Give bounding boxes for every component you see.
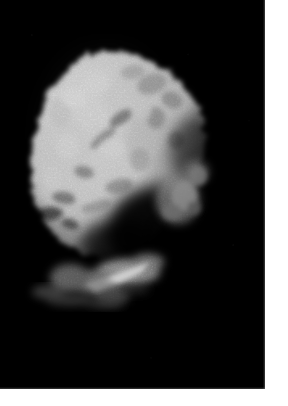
space-image-frame: [0, 0, 265, 389]
page-margin-right: [265, 0, 288, 406]
comet-nucleus: [0, 0, 265, 389]
image-page: [0, 0, 288, 406]
lower-rubble-spur: [0, 0, 265, 389]
nucleus-render: [0, 0, 265, 389]
page-margin-bottom: [0, 389, 288, 406]
